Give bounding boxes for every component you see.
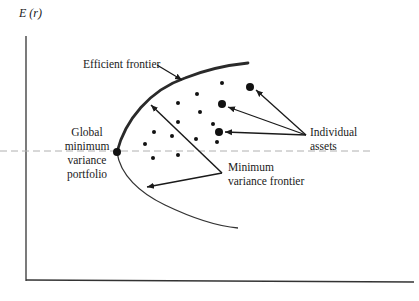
assets-label-line2: assets [310,139,357,153]
asset-dot-small [152,130,156,134]
asset-dot-small [176,153,180,157]
mvf-arrow-upper-line [151,105,222,173]
asset-dot-small [170,134,174,138]
mvf-label: Minimum variance frontier [228,160,304,188]
efficient-frontier-label: Efficient frontier [83,57,160,71]
asset-arrow-3 [225,132,306,135]
gmv-label-line1: Global [57,125,117,139]
y-axis-label: E (r) [19,6,42,20]
gmv-label-line4: portfolio [57,167,117,181]
asset-dot-large [215,128,223,136]
asset-dot-small [211,122,215,126]
asset-dot-large [246,83,254,91]
individual-assets-label: Individual assets [310,125,357,153]
asset-dot-small [194,137,198,141]
asset-dot-small [143,142,147,146]
efficient-frontier-arrow [157,65,182,80]
asset-dot-small [198,110,202,114]
mvf-label-line2: variance frontier [228,174,304,188]
gmv-label-line3: variance [57,153,117,167]
mvf-label-line1: Minimum [228,160,304,174]
asset-dots [143,81,254,160]
asset-dot-large [218,100,226,108]
asset-arrow-2 [228,107,306,135]
asset-dot-small [176,120,180,124]
asset-dot-small [215,140,219,144]
asset-dot-small [176,101,180,105]
asset-dot-small [195,92,199,96]
mvf-arrow-lower [147,173,222,187]
gmv-label-line2: minimum [57,139,117,153]
inefficient-frontier-curve [117,152,238,228]
x-axis [26,280,414,282]
asset-dot-small [220,81,224,85]
assets-label-line1: Individual [310,125,357,139]
asset-arrow-1 [256,90,306,135]
gmv-label: Global minimum variance portfolio [57,125,117,181]
asset-dot-small [151,156,155,160]
